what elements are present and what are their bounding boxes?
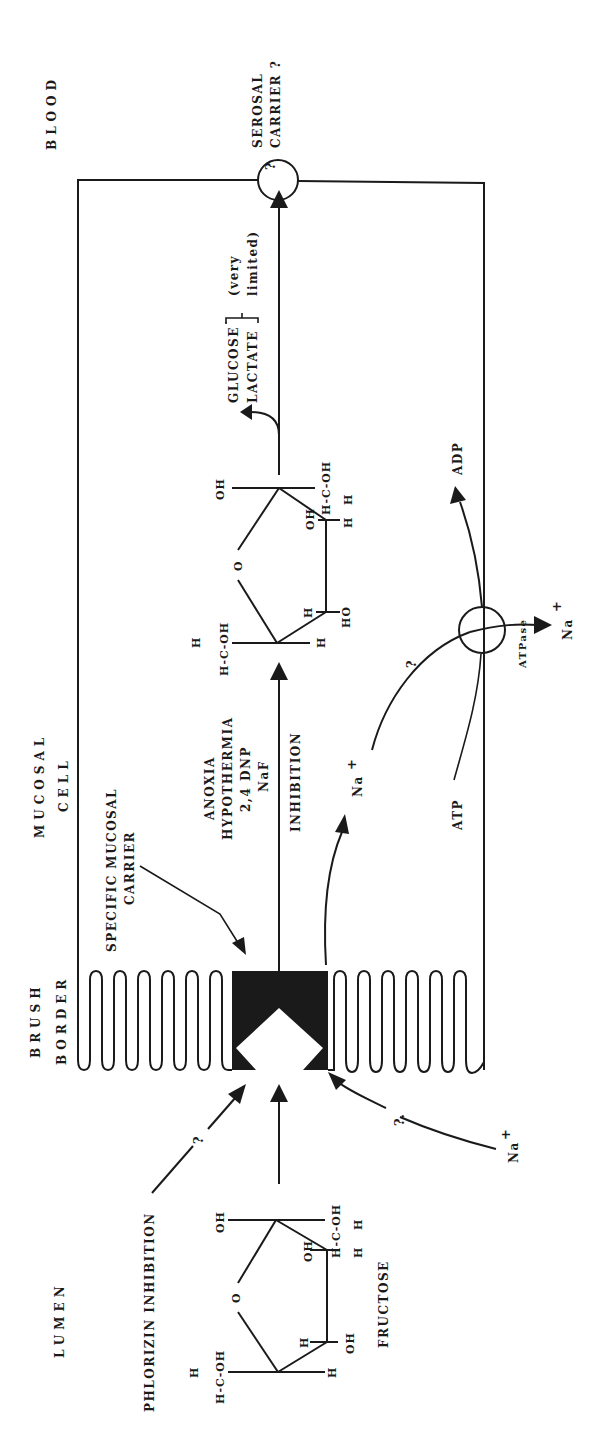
na-cell-label: Na [351, 775, 365, 797]
serosal-carrier-label-2: CARRIER ? [269, 60, 283, 148]
lumen-hcoh-bottom: H-C-OH [214, 1350, 227, 1404]
na-blood-label: Na [561, 618, 575, 640]
phlorizin-question: ? [191, 1136, 206, 1144]
zone-label-cell: CELL [57, 756, 71, 812]
zone-label-blood: BLOOD [45, 75, 59, 150]
atpase-label: ATPase [517, 619, 528, 669]
limited-label: limited) [246, 230, 260, 296]
very-label: (very [227, 255, 241, 296]
cell-hcoh-bottom: H-C-OH [218, 622, 231, 676]
cell-ho-lower: HO [340, 606, 353, 628]
zone-label-mucosal: MUCOSAL [33, 733, 47, 838]
lumen-oh-lower: OH [344, 1332, 357, 1354]
zone-label-lumen: LUMEN [53, 1281, 67, 1358]
glucose-lactate-bracket [226, 313, 258, 324]
cell-h-lower: H [302, 607, 315, 618]
serosal-carrier-label-1: SEROSAL [251, 73, 265, 148]
specific-carrier-label-2: CARRIER [123, 831, 137, 905]
adp-arrow [450, 486, 482, 607]
cell-h-top: H [342, 494, 355, 505]
carrier-to-cell-arrow [270, 662, 288, 972]
cell-h-bottom-left: H [190, 637, 203, 648]
lactate-label: LACTATE [246, 330, 260, 403]
phlorizin-label: PHLORIZIN INHIBITION [143, 1212, 157, 1412]
lumen-oh-top: OH [214, 1211, 227, 1233]
inhibitor-naf: NaF [257, 760, 271, 792]
mucosal-cell-outline [78, 180, 484, 1070]
inhibitor-dnp: 2,4 DNP [239, 746, 253, 812]
lumen-h-inner: H [352, 1247, 365, 1258]
na-blood-plus: + [549, 601, 564, 612]
fructose-label: FRUCTOSE [377, 1260, 391, 1348]
atp-label: ATP [451, 799, 465, 831]
brush-border-microvilli-left [78, 971, 232, 1070]
cell-h-bottom: H [315, 637, 328, 648]
serosal-question-mark: ? [263, 162, 278, 170]
intestinal-fructose-transport-diagram: BLOOD MUCOSAL CELL BRUSH BORDER LUMEN SE… [0, 0, 596, 1443]
cell-oh-top: OH [214, 478, 227, 500]
glucose-label: GLUCOSE [227, 326, 241, 403]
fructose-molecule-lumen [228, 1220, 340, 1372]
zone-label-border: BORDER [55, 975, 69, 1065]
lumen-h-bottom: H [326, 1367, 339, 1378]
specific-carrier-label-1: SPECIFIC MUCOSAL [105, 788, 119, 952]
lumen-hcoh-top: H-C-OH [330, 1204, 343, 1258]
atp-line [454, 654, 481, 780]
na-lumen-arrow [328, 1072, 496, 1149]
inhibitor-anoxia: ANOXIA [203, 756, 217, 821]
na-carrier-to-cell-arrow [325, 814, 349, 965]
inhibition-label: INHIBITION [289, 732, 303, 832]
na-lumen-label: Na [507, 1141, 521, 1163]
cell-hcoh-top: H-C-OH [320, 461, 333, 515]
lumen-h-bottom-left: H [188, 1367, 201, 1378]
adp-label: ADP [451, 442, 465, 476]
specific-mucosal-carrier-icon [232, 971, 328, 1070]
lumen-ring-o: O [230, 1292, 243, 1303]
cell-h-inner: H [342, 517, 355, 528]
fructose-entry-arrow [270, 1084, 288, 1184]
na-cell-question: ? [404, 660, 419, 668]
zone-label-brush: BRUSH [29, 982, 43, 1058]
na-lumen-plus: + [498, 1129, 513, 1140]
na-cell-plus: + [344, 759, 359, 770]
brush-border-microvilli-right [328, 971, 484, 1073]
specific-carrier-pointer [140, 866, 246, 955]
cell-oh-inner: OH [304, 508, 317, 530]
cell-ring-o: O [232, 560, 245, 571]
lumen-h-top: H [352, 1219, 365, 1230]
lumen-oh-inner: OH [302, 1240, 315, 1262]
lumen-h-lower: H [298, 1337, 311, 1348]
inhibitor-hypothermia: HYPOTHERMIA [221, 717, 235, 840]
na-lumen-question: ?. [392, 1114, 407, 1126]
